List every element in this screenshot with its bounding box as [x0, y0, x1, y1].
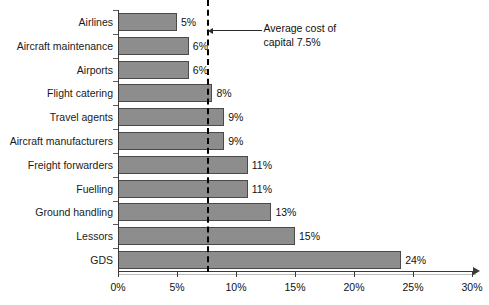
- bar: [118, 251, 401, 269]
- bar: [118, 203, 271, 221]
- x-axis-tick-label: 25%: [402, 281, 423, 293]
- bar: [118, 180, 248, 198]
- average-cost-of-capital-reference-line: [207, 0, 209, 272]
- bar-value-label: 15%: [299, 230, 320, 242]
- x-axis-tick-label: 5%: [169, 281, 184, 293]
- reference-line-annotation: Average cost of capital 7.5%: [264, 22, 337, 49]
- bar-row: 13%: [118, 203, 472, 221]
- x-axis-tick: [118, 272, 119, 277]
- category-label: Flight catering: [0, 87, 113, 99]
- x-axis-tick-label: 30%: [461, 281, 482, 293]
- bar-row: 24%: [118, 251, 472, 269]
- bar: [118, 61, 189, 79]
- y-axis-tick: [113, 224, 118, 225]
- x-axis-baseline-shadow: [118, 274, 476, 275]
- y-axis-tick: [113, 58, 118, 59]
- bar-value-label: 24%: [405, 254, 426, 266]
- y-axis-tick: [113, 248, 118, 249]
- y-axis-tick: [113, 10, 118, 11]
- y-axis-tick: [113, 34, 118, 35]
- bar-value-label: 11%: [252, 183, 272, 195]
- x-axis-tick: [354, 272, 355, 277]
- category-label: Travel agents: [0, 111, 113, 123]
- x-axis-tick: [413, 272, 414, 277]
- x-axis-tick-label: 10%: [225, 281, 246, 293]
- y-axis-tick: [113, 153, 118, 154]
- y-axis-tick: [113, 81, 118, 82]
- bar-value-label: 9%: [228, 111, 243, 123]
- category-label: Fuelling: [0, 183, 113, 195]
- x-axis-line: [118, 271, 478, 272]
- bar-value-label: 8%: [216, 87, 231, 99]
- y-axis-tick: [113, 105, 118, 106]
- category-label: Airlines: [0, 16, 113, 28]
- bar: [118, 37, 189, 55]
- x-axis-tick: [472, 272, 473, 277]
- bar-value-label: 13%: [275, 206, 296, 218]
- bar-row: 6%: [118, 61, 472, 79]
- category-label: Airports: [0, 64, 113, 76]
- y-axis-tick: [113, 129, 118, 130]
- annotation-arrow-icon: [208, 28, 213, 34]
- category-label: Lessors: [0, 230, 113, 242]
- plot-area: 5%6%6%8%9%9%11%11%13%15%24%: [118, 10, 472, 272]
- category-axis-labels: AirlinesAircraft maintenanceAirportsFlig…: [0, 10, 113, 272]
- x-axis-tick-label: 20%: [343, 281, 364, 293]
- x-axis-tick: [177, 272, 178, 277]
- x-axis-tick-label: 0%: [110, 281, 125, 293]
- bar-row: 9%: [118, 132, 472, 150]
- bar-value-label: 9%: [228, 135, 243, 147]
- category-label: Ground handling: [0, 206, 113, 218]
- category-label: Aircraft maintenance: [0, 40, 113, 52]
- annotation-leader-line: [210, 30, 262, 31]
- bar-value-label: 5%: [181, 16, 196, 28]
- bar: [118, 156, 248, 174]
- y-axis-tick: [113, 201, 118, 202]
- bar-row: 8%: [118, 84, 472, 102]
- y-axis-line: [118, 10, 119, 272]
- y-axis-tick: [113, 177, 118, 178]
- bar: [118, 84, 212, 102]
- x-axis-tick-label: 15%: [284, 281, 305, 293]
- bar-row: 15%: [118, 227, 472, 245]
- category-label: Freight forwarders: [0, 159, 113, 171]
- x-axis-tick: [295, 272, 296, 277]
- x-axis-tick: [236, 272, 237, 277]
- bar-row: 11%: [118, 180, 472, 198]
- bar: [118, 13, 177, 31]
- bar-value-label: 11%: [252, 159, 272, 171]
- category-label: Aircraft manufacturers: [0, 135, 113, 147]
- bar-row: 9%: [118, 108, 472, 126]
- category-label: GDS: [0, 254, 113, 266]
- bar-chart: AirlinesAircraft maintenanceAirportsFlig…: [0, 0, 489, 305]
- x-axis-arrow-icon: [473, 267, 480, 275]
- bar-row: 11%: [118, 156, 472, 174]
